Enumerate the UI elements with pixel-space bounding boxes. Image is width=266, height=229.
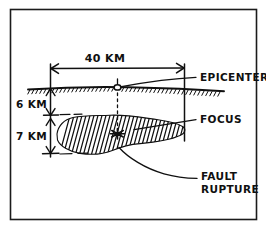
annotation-label-fault-line2: RUPTURE [201,183,259,195]
dimension-label-6km: 6 KM [16,98,47,110]
annotation-label-focus: FOCUS [200,113,242,125]
focus-marker [111,129,125,140]
dimension-label-7km: 7 KM [16,130,47,142]
dimension-label-40km: 40 KM [85,52,126,65]
diagram-canvas: 40 KM 6 KM 7 KM EPICENTER FOCUS FAULT RU… [0,0,266,229]
earthquake-diagram: 40 KM 6 KM 7 KM EPICENTER FOCUS FAULT RU… [0,0,266,229]
annotation-label-epicenter: EPICENTER [200,71,266,83]
epicenter-marker [114,85,121,90]
annotation-label-fault-line1: FAULT [201,170,238,182]
